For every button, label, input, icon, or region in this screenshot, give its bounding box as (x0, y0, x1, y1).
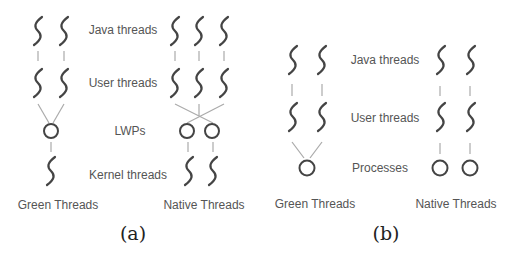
panel-b: Java threads User threads Processes Gree… (275, 46, 497, 244)
java-thread-icon (60, 17, 68, 45)
connector-line (38, 104, 49, 123)
java-thread-icon (437, 46, 445, 74)
user-thread-icon (60, 69, 68, 97)
kernel-thread-icon (209, 157, 217, 185)
user-thread-icon (437, 103, 445, 131)
native-threads-label: Native Threads (163, 198, 244, 212)
processes-label: Processes (352, 161, 408, 175)
lwp-circle-icon (44, 124, 58, 138)
java-thread-icon (195, 17, 203, 45)
green-threads-label: Green Threads (275, 197, 356, 211)
panel-b-caption: (b) (373, 222, 400, 244)
java-thread-icon (171, 17, 179, 45)
java-thread-icon (34, 17, 42, 45)
user-thread-icon (195, 69, 203, 97)
java-thread-icon (289, 46, 297, 74)
user-thread-icon (318, 103, 326, 131)
panel-a-caption: (a) (120, 222, 146, 244)
panel-b-native-threads-group (433, 46, 478, 176)
kernel-threads-label: Kernel threads (89, 168, 167, 182)
connector-line (53, 104, 64, 123)
lwp-circle-icon (180, 124, 194, 138)
user-thread-icon (289, 103, 297, 131)
panel-b-green-threads-group (289, 46, 326, 176)
user-threads-label: User threads (351, 111, 420, 125)
user-thread-icon (171, 69, 179, 97)
process-circle-icon (463, 161, 478, 176)
green-threads-label: Green Threads (18, 198, 99, 212)
kernel-thread-icon (47, 157, 55, 185)
user-thread-icon (34, 69, 42, 97)
connector-line (175, 104, 213, 123)
connector-line (310, 142, 322, 158)
panel-a-native-threads-group (171, 17, 228, 185)
java-thread-icon (467, 46, 475, 74)
panel-a: Java threads User threads LWPs Kernel th… (18, 17, 245, 244)
connector-line (187, 104, 224, 123)
panel-a-green-threads-group (34, 17, 68, 185)
process-circle-icon (300, 161, 315, 176)
java-thread-icon (220, 17, 228, 45)
user-thread-icon (220, 69, 228, 97)
lwp-circle-icon (205, 124, 219, 138)
lwps-label: LWPs (114, 124, 145, 138)
user-thread-icon (467, 103, 475, 131)
process-circle-icon (433, 161, 448, 176)
java-thread-icon (318, 46, 326, 74)
user-threads-label: User threads (89, 76, 158, 90)
kernel-thread-icon (185, 157, 193, 185)
native-threads-label: Native Threads (415, 197, 496, 211)
java-threads-label: Java threads (351, 53, 420, 67)
connector-line (292, 142, 304, 158)
threading-models-diagram: Java threads User threads LWPs Kernel th… (0, 0, 521, 261)
java-threads-label: Java threads (89, 23, 158, 37)
